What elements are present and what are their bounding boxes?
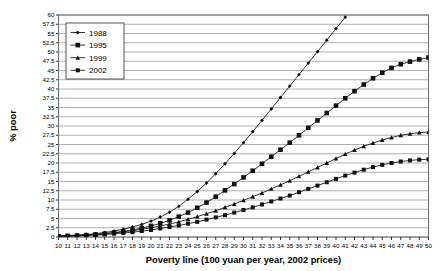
data-point-marker [186, 210, 191, 215]
data-point-marker [343, 96, 348, 101]
x-tick-label: 22 [166, 242, 173, 249]
y-tick-label: 5 [51, 215, 55, 222]
x-tick-label: 31 [249, 242, 256, 249]
data-point-marker [371, 76, 376, 81]
data-point-marker [176, 214, 181, 219]
x-tick-label: 25 [194, 242, 201, 249]
y-tick-label: 2.5 [46, 224, 55, 231]
x-tick-label: 43 [360, 242, 367, 249]
data-point-marker [399, 160, 403, 164]
x-tick-label: 39 [323, 242, 330, 249]
data-point-marker [325, 180, 329, 184]
data-point-marker [306, 126, 311, 131]
x-tick-label: 48 [407, 242, 414, 249]
data-point-marker [76, 43, 81, 48]
data-point-marker [353, 171, 357, 175]
data-point-marker [269, 154, 274, 159]
x-tick-label: 16 [111, 242, 118, 249]
data-point-marker [260, 202, 264, 206]
x-tick-label: 44 [370, 242, 377, 249]
data-point-marker [260, 191, 265, 195]
x-tick-label: 46 [388, 242, 395, 249]
x-tick-label: 32 [259, 242, 266, 249]
y-tick-label: 50 [48, 48, 55, 55]
data-point-marker [278, 183, 283, 187]
x-tick-label: 21 [157, 242, 164, 249]
series-1999 [56, 130, 431, 239]
x-tick-label: 18 [129, 242, 136, 249]
legend-label: 1988 [89, 29, 107, 38]
data-point-marker [121, 231, 125, 235]
data-point-marker [168, 225, 172, 229]
legend: 1988199519992002 [66, 23, 124, 79]
data-point-marker [195, 220, 199, 224]
data-point-marker [140, 223, 144, 227]
series-line-2002 [59, 159, 429, 236]
data-point-marker [232, 182, 237, 187]
data-point-marker [195, 205, 200, 210]
y-tick-label: 20 [48, 159, 55, 166]
data-point-marker [279, 197, 283, 201]
data-point-marker [362, 168, 366, 172]
data-point-marker [177, 224, 181, 228]
x-axis-title: Poverty line (100 yuan per year, 2002 pr… [146, 255, 341, 265]
data-point-marker [131, 230, 135, 234]
y-tick-label: 25 [48, 141, 55, 148]
x-tick-label: 38 [314, 242, 321, 249]
x-tick-label: 11 [65, 242, 72, 249]
x-tick-label: 14 [92, 242, 99, 249]
data-point-marker [223, 188, 228, 193]
data-point-marker [242, 208, 246, 212]
x-tick-label: 34 [277, 242, 284, 249]
data-point-marker [380, 70, 385, 75]
series-line-1999 [59, 132, 429, 236]
x-tick-label: 40 [333, 242, 340, 249]
data-point-marker [352, 148, 357, 152]
y-tick-label: 60 [48, 11, 55, 18]
data-point-marker [306, 170, 311, 174]
data-point-marker [343, 174, 347, 178]
data-point-marker [149, 228, 153, 232]
data-point-marker [84, 234, 88, 238]
data-point-marker [297, 174, 302, 178]
chart-container: 02.557.51012.51517.52022.52527.53032.535… [0, 0, 445, 271]
x-tick-label: 12 [74, 242, 81, 249]
data-point-marker [390, 161, 394, 165]
series-2002 [57, 157, 431, 238]
x-tick-label: 10 [55, 242, 62, 249]
y-tick-label: 45 [48, 67, 55, 74]
x-axis: 1011121314151617181920212223242526272829… [55, 237, 432, 249]
data-point-marker [398, 62, 403, 67]
data-point-marker [223, 213, 227, 217]
data-point-marker [232, 202, 237, 206]
y-tick-label: 27.5 [42, 131, 55, 138]
data-point-marker [324, 111, 329, 116]
data-point-marker [140, 229, 144, 233]
y-tick-label: 32.5 [42, 113, 55, 120]
data-point-marker [315, 165, 320, 169]
data-point-marker [371, 165, 375, 169]
x-tick-label: 17 [120, 242, 127, 249]
x-tick-label: 30 [240, 242, 247, 249]
y-axis-title: % poor [8, 110, 18, 142]
data-point-marker [94, 233, 98, 237]
data-point-marker [316, 184, 320, 188]
data-point-marker [288, 194, 292, 198]
legend-label: 1995 [89, 41, 107, 50]
legend-label: 2002 [89, 66, 107, 75]
x-tick-label: 19 [138, 242, 145, 249]
y-tick-label: 55 [48, 30, 55, 37]
y-tick-label: 30 [48, 122, 55, 129]
data-point-marker [103, 232, 107, 236]
x-tick-label: 36 [296, 242, 303, 249]
y-tick-label: 0 [51, 233, 55, 240]
data-point-marker [241, 175, 246, 180]
data-point-marker [269, 199, 273, 203]
data-point-marker [361, 82, 366, 87]
x-tick-label: 42 [351, 242, 358, 249]
x-tick-label: 33 [268, 242, 275, 249]
x-tick-label: 37 [305, 242, 312, 249]
y-tick-label: 40 [48, 85, 55, 92]
data-point-marker [427, 157, 431, 161]
data-point-marker [158, 226, 162, 230]
